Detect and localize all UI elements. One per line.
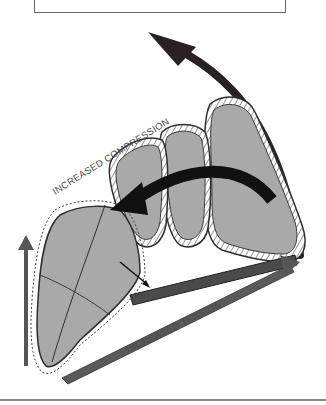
label-increased-tension: INCREASED TENSION bbox=[124, 299, 223, 355]
spine-bending-diagram: INCREASED COMPRESSION INCREASED TENSION bbox=[0, 0, 326, 405]
bottom-divider bbox=[0, 399, 326, 401]
